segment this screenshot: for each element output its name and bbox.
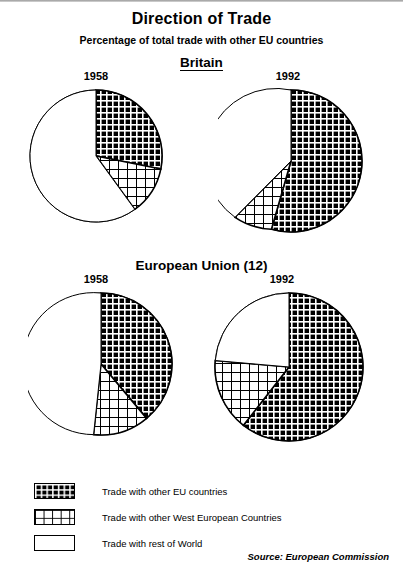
pie-chart-britain-1958 bbox=[28, 88, 164, 224]
pie-slice-rest-of-world bbox=[215, 293, 289, 367]
chart-subtitle: Percentage of total trade with other EU … bbox=[0, 34, 403, 46]
pie-chart-european-union-1958 bbox=[28, 291, 174, 437]
legend-label-rest-of-world: Trade with rest of World bbox=[102, 538, 202, 549]
legend-swatch-west-europe bbox=[34, 509, 75, 525]
legend-swatch-eu bbox=[34, 483, 75, 499]
source-attribution: Source: European Commission bbox=[0, 551, 389, 562]
year-label-britain-1992: 1992 bbox=[258, 70, 318, 82]
pie-chart-britain-1992 bbox=[218, 88, 364, 234]
legend-label-eu: Trade with other EU countries bbox=[102, 486, 227, 497]
section-heading-britain: Britain bbox=[0, 55, 403, 70]
section-heading-european-union: European Union (12) bbox=[0, 258, 403, 273]
section-heading-britain-text: Britain bbox=[180, 55, 223, 71]
legend-item: Trade with other West European Countries bbox=[34, 504, 374, 530]
year-label-eu-1992: 1992 bbox=[252, 273, 312, 285]
legend: Trade with other EU countries Trade with… bbox=[34, 478, 374, 556]
legend-label-west-europe: Trade with other West European Countries bbox=[102, 512, 282, 523]
legend-swatch-rest-of-world bbox=[34, 535, 75, 551]
year-label-britain-1958: 1958 bbox=[66, 70, 126, 82]
chart-title: Direction of Trade bbox=[0, 10, 403, 28]
section-heading-european-union-text: European Union (12) bbox=[135, 258, 267, 273]
top-divider bbox=[0, 0, 403, 2]
legend-item: Trade with other EU countries bbox=[34, 478, 374, 504]
pie-chart-european-union-1992 bbox=[213, 291, 365, 443]
year-label-eu-1958: 1958 bbox=[66, 273, 126, 285]
pie-slice-rest-of-world bbox=[28, 293, 101, 435]
